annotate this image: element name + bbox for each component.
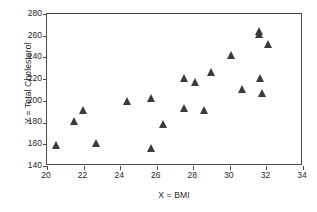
data-point-marker (79, 106, 87, 114)
data-point-marker (147, 94, 155, 102)
y-tick-mark (43, 144, 47, 145)
data-point-marker (180, 104, 188, 112)
y-tick-mark (43, 123, 47, 124)
data-point-marker (227, 51, 235, 59)
x-tick-label: 32 (252, 171, 278, 180)
data-point-marker (123, 97, 131, 105)
data-point-marker (180, 74, 188, 82)
x-tick-label: 30 (216, 171, 242, 180)
data-point-marker (70, 117, 78, 125)
data-point-marker (200, 106, 208, 114)
data-point-marker (147, 144, 155, 152)
x-tick-label: 34 (289, 171, 315, 180)
y-axis-title: Y = Total Cholesterol (23, 3, 33, 163)
y-tick-mark (43, 36, 47, 37)
data-point-marker (264, 40, 272, 48)
data-point-marker (159, 120, 167, 128)
data-point-marker (92, 139, 100, 147)
y-tick-mark (43, 57, 47, 58)
plot-area (46, 13, 302, 165)
y-tick-mark (43, 14, 47, 15)
x-tick-label: 20 (33, 171, 59, 180)
data-point-marker (52, 141, 60, 149)
x-tick-label: 26 (143, 171, 169, 180)
x-tick-label: 28 (179, 171, 205, 180)
y-tick-mark (43, 79, 47, 80)
x-tick-label: 24 (106, 171, 132, 180)
data-point-marker (258, 89, 266, 97)
data-point-marker (191, 78, 199, 86)
data-point-marker (255, 30, 263, 38)
data-point-marker (207, 68, 215, 76)
x-axis-title: X = BMI (46, 190, 302, 200)
data-point-marker (256, 74, 264, 82)
y-tick-mark (43, 101, 47, 102)
scatter-chart: 140160180200220240260280 202224262830323… (0, 0, 317, 212)
x-axis-tick-labels: 2022242628303234 (46, 171, 302, 185)
x-tick-label: 22 (70, 171, 96, 180)
data-point-marker (238, 85, 246, 93)
